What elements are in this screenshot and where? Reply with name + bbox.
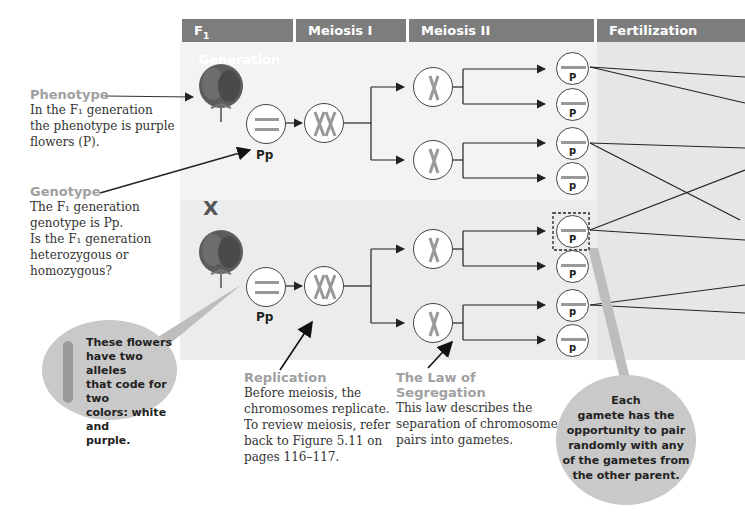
gamete-7-allele: p: [569, 306, 576, 317]
phenotype-line-3: flowers (P).: [30, 134, 180, 150]
replication-line-3: To review meiosis, refer: [244, 417, 404, 433]
alleles-line-3: that code for two: [86, 378, 177, 406]
gamete-2-allele: P: [569, 108, 576, 119]
phenotype-line-2: the phenotype is purple: [30, 118, 180, 134]
genotype-line-2: genotype is Pp.: [30, 215, 180, 231]
segregation-title: The Law of Segregation: [396, 370, 566, 400]
phenotype-line-1: In the F₁ generation: [30, 102, 180, 118]
genotype-line-3: Is the F₁ generation: [30, 231, 180, 247]
replication-line-1: Before meiosis, the: [244, 385, 404, 401]
gamete-bubble-text: Each gamete has the opportunity to pair …: [556, 375, 696, 483]
phenotype-title: Phenotype: [30, 87, 180, 102]
gamete-3-allele: p: [569, 145, 576, 156]
gamete-bubble-line-4: randomly with any: [556, 438, 696, 453]
gamete-bubble-line-6: the other parent.: [556, 468, 696, 483]
gamete-bubble-line-2: gamete has the: [556, 408, 696, 423]
cross-symbol: X: [203, 196, 218, 220]
purple-flower-icon-bottom: [195, 228, 247, 288]
replication-line-4: back to Figure 5.11 on: [244, 433, 404, 449]
meiosis-2-cell-4: [413, 303, 453, 343]
meiosis-1-cell-top: [304, 103, 344, 143]
gamete-8-allele: p: [569, 342, 576, 353]
genotype-title: Genotype: [30, 184, 180, 199]
gamete-bubble-line-3: opportunity to pair: [556, 423, 696, 438]
segregation-line-3: pairs into gametes.: [396, 432, 566, 448]
gamete-5-allele: P: [569, 234, 576, 245]
genotype-line-4: heterozygous or: [30, 247, 180, 263]
gamete-info-bubble: Each gamete has the opportunity to pair …: [556, 375, 696, 505]
gamete-bubble-line-1: Each: [556, 393, 696, 408]
gamete-bubble-line-5: of the gametes from: [556, 453, 696, 468]
segregation-line-1: This law describes the: [396, 400, 566, 416]
alleles-bubble-text: These flowers have two alleles that code…: [86, 336, 177, 448]
gamete-6-allele: P: [569, 269, 576, 280]
segregation-line-2: separation of chromosome: [396, 416, 566, 432]
genotype-callout: Genotype The F₁ generation genotype is P…: [30, 184, 180, 279]
alleles-line-5: purple.: [86, 434, 177, 448]
gamete-1-allele: P: [569, 72, 576, 83]
purple-flower-icon-top: [195, 62, 247, 122]
gamete-4-allele: p: [569, 180, 576, 191]
replication-line-5: pages 116–117.: [244, 449, 404, 465]
phenotype-callout: Phenotype In the F₁ generation the pheno…: [30, 87, 180, 150]
genotype-line-5: homozygous?: [30, 263, 180, 279]
parent-genotype-bottom: Pp: [256, 310, 273, 324]
replication-title: Replication: [244, 370, 404, 385]
chromosome-icon: [63, 341, 73, 403]
meiosis-2-cell-2: [413, 140, 453, 180]
alleles-line-4: colors: white and: [86, 406, 177, 434]
meiosis-2-cell-3: [413, 229, 453, 269]
meiosis-2-cell-1: [413, 67, 453, 107]
replication-callout: Replication Before meiosis, the chromoso…: [244, 370, 404, 465]
segregation-callout: The Law of Segregation This law describe…: [396, 370, 566, 448]
genotype-line-1: The F₁ generation: [30, 199, 180, 215]
replication-line-2: chromosomes replicate.: [244, 401, 404, 417]
alleles-line-1: These flowers: [86, 336, 177, 350]
parent-genotype-top: Pp: [256, 148, 273, 162]
alleles-info-bubble: These flowers have two alleles that code…: [42, 320, 177, 420]
meiosis-1-cell-bottom: [304, 266, 344, 306]
parent-cell-bottom: [246, 267, 286, 307]
alleles-line-2: have two alleles: [86, 350, 177, 378]
parent-cell-top: [246, 104, 286, 144]
